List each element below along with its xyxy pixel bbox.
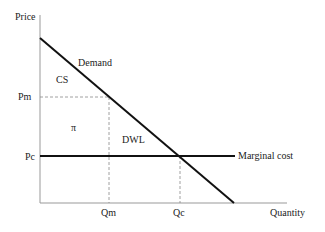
deadweight-loss-label: DWL (122, 134, 145, 145)
y-axis-label: Price (15, 11, 36, 22)
x-axis-label: Quantity (270, 207, 305, 218)
qc-label: Qc (173, 207, 185, 218)
consumer-surplus-label: CS (56, 74, 68, 85)
marginal-cost-label: Marginal cost (238, 150, 293, 161)
demand-line (40, 38, 234, 203)
monopoly-diagram: Price Quantity Demand Marginal cost Pm P… (0, 0, 325, 232)
profit-label: π (71, 122, 76, 133)
pm-label: Pm (18, 91, 32, 102)
demand-label: Demand (78, 57, 112, 68)
pc-label: Pc (25, 151, 36, 162)
qm-label: Qm (101, 207, 116, 218)
